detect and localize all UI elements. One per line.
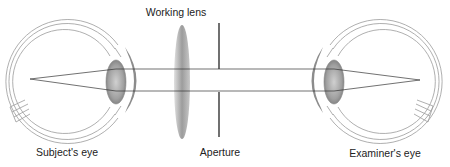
examiner-eye-lens	[324, 60, 344, 104]
aperture-label: Aperture	[200, 146, 240, 158]
subject-eye-cornea	[125, 47, 137, 113]
light-rays	[30, 69, 420, 91]
ophthalmoscopy-diagram: Working lens Subject's eye Aperture Exam…	[0, 0, 450, 167]
subject-eye	[6, 19, 121, 143]
examiner-eye-label: Examiner's eye	[349, 147, 420, 159]
subject-eye-label: Subject's eye	[36, 146, 98, 158]
diagram-drawing	[0, 0, 450, 167]
examiner-eye-cornea	[312, 47, 324, 113]
working-lens	[174, 25, 190, 139]
subject-eye-lens	[106, 60, 126, 104]
working-lens-label: Working lens	[146, 6, 207, 18]
